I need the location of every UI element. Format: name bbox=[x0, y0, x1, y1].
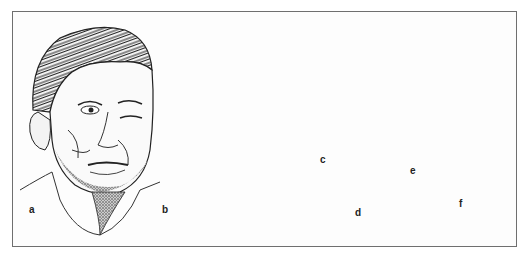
panel-label-f: f bbox=[459, 199, 462, 209]
panel-label-e: e bbox=[410, 166, 416, 176]
panel-label-c: c bbox=[320, 155, 326, 165]
panel-label-b: b bbox=[162, 205, 168, 215]
panel-label-d: d bbox=[355, 208, 361, 218]
panel-a-face bbox=[20, 27, 160, 235]
panel-label-a: a bbox=[29, 205, 35, 215]
figure-illustration bbox=[0, 0, 529, 259]
